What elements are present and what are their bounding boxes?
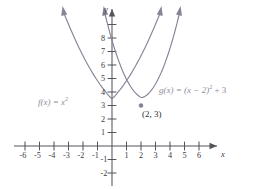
y-axis-label: y bbox=[104, 5, 108, 14]
x-tick-label--3: -3 bbox=[63, 152, 70, 160]
x-tick-label-3: 3 bbox=[154, 152, 158, 160]
curve-label-g: g(x) = (x − 2)2 + 3 bbox=[159, 86, 226, 95]
x-tick-label--6: -6 bbox=[20, 152, 27, 160]
y-tick-label-5: 5 bbox=[101, 75, 105, 83]
y-tick-label-8: 8 bbox=[101, 35, 105, 43]
curve-label-f: f(x) = x2 bbox=[38, 98, 68, 107]
x-tick-label--2: -2 bbox=[78, 152, 85, 160]
y-tick-label-6: 6 bbox=[101, 62, 105, 70]
vertex-marker bbox=[139, 104, 143, 108]
y-axis bbox=[108, 9, 117, 186]
y-tick-label-7: 7 bbox=[101, 48, 105, 56]
y-tick-label-1: 1 bbox=[101, 129, 105, 137]
x-tick-label-2: 2 bbox=[139, 152, 143, 160]
graph-figure: -6 -5 -4 -3 -2 -1 1 2 3 4 5 6 1 2 3 4 5 … bbox=[0, 0, 255, 189]
curve-label-f-text: f(x) = x bbox=[38, 97, 65, 107]
y-tick-label-2: 2 bbox=[101, 116, 105, 124]
x-tick-label--1: -1 bbox=[92, 152, 99, 160]
y-tick-label-3: 3 bbox=[101, 102, 105, 110]
x-axis-label: x bbox=[221, 150, 225, 159]
x-tick-label-6: 6 bbox=[197, 152, 201, 160]
x-axis bbox=[14, 142, 217, 151]
y-tick-label--2: -2 bbox=[101, 170, 108, 178]
x-tick-label--5: -5 bbox=[34, 152, 41, 160]
curve-label-g-text-b: + 3 bbox=[212, 85, 226, 95]
x-tick-label--4: -4 bbox=[49, 152, 56, 160]
curve-label-f-exponent: 2 bbox=[65, 96, 68, 102]
y-tick-label--1: -1 bbox=[101, 156, 108, 164]
x-tick-label-5: 5 bbox=[183, 152, 187, 160]
y-tick-label-4: 4 bbox=[101, 89, 105, 97]
curve-label-g-text-a: g(x) = (x − 2) bbox=[159, 85, 209, 95]
x-tick-label-4: 4 bbox=[168, 152, 172, 160]
vertex-point-label: (2, 3) bbox=[142, 110, 162, 119]
x-tick-label-1: 1 bbox=[125, 152, 129, 160]
